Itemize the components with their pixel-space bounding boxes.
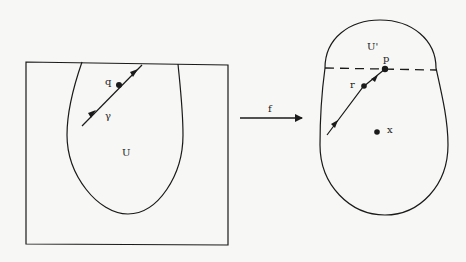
label-gamma: γ xyxy=(105,110,111,121)
label-p: p xyxy=(383,53,389,64)
image-region-boundary xyxy=(320,20,448,215)
left-figure: q γ U xyxy=(26,62,228,245)
label-r: r xyxy=(350,79,355,90)
label-u-prime: U' xyxy=(367,41,378,52)
curve-arrow-icon xyxy=(371,75,378,82)
label-u: U xyxy=(122,147,130,158)
right-figure: U' p r x xyxy=(320,20,448,215)
dashed-boundary xyxy=(325,68,436,70)
point-x xyxy=(374,129,380,135)
point-q xyxy=(116,82,122,88)
label-q: q xyxy=(105,76,112,87)
gamma-arrow-icon xyxy=(88,110,96,118)
label-x: x xyxy=(387,124,393,135)
region-u-boundary xyxy=(67,62,183,214)
diagram-canvas: q γ U f U' p r x xyxy=(0,0,466,262)
label-f: f xyxy=(268,103,273,114)
map-f: f xyxy=(240,103,302,118)
curve-arrow-icon xyxy=(331,120,338,128)
point-r xyxy=(361,83,367,89)
point-p xyxy=(382,66,388,72)
